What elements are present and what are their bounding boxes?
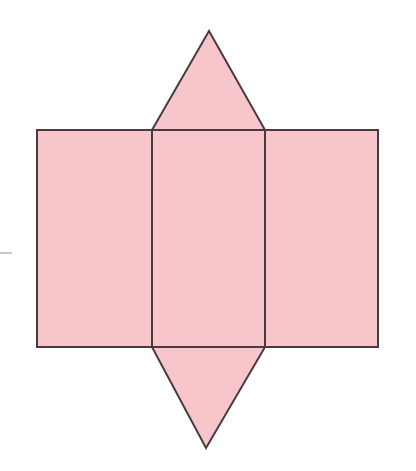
face-bottom-triangle: [152, 347, 265, 448]
face-left-rectangle: [37, 130, 152, 347]
face-top-triangle: [152, 31, 265, 130]
figure-canvas: [0, 0, 416, 471]
left-margin-tick-mark: [0, 252, 12, 254]
triangular-prism-net-diagram: [0, 0, 416, 471]
face-middle-rectangle: [152, 130, 265, 347]
face-right-rectangle: [265, 130, 378, 347]
